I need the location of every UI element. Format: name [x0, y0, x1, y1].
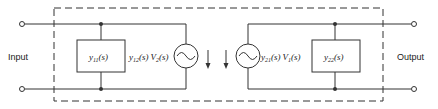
input-label: Input: [8, 52, 29, 62]
input-terminal-bottom: [20, 87, 25, 92]
junction-dot: [333, 87, 337, 91]
output-label: Output: [397, 52, 425, 62]
input-terminal-top: [20, 22, 25, 27]
output-terminal-top: [412, 22, 417, 27]
output-terminal-bottom: [412, 87, 417, 92]
right-sine-glyph: [239, 53, 257, 60]
arrowhead-icon: [224, 63, 229, 69]
junction-dot: [333, 22, 337, 26]
two-port-y-parameter-diagram: Input Output y11(s) y22(s) y12(s)V2(s) y…: [0, 0, 438, 109]
left-source-label: y12(s)V2(s): [128, 52, 169, 63]
left-sine-glyph: [177, 53, 195, 60]
right-source-label: y21(s)V1(s): [260, 52, 301, 63]
y22-label: y22(s): [323, 52, 344, 63]
junction-dot: [99, 87, 103, 91]
arrowhead-icon: [206, 63, 211, 69]
circuit-svg: Input Output y11(s) y22(s) y12(s)V2(s) y…: [0, 0, 438, 109]
y11-label: y11(s): [88, 52, 108, 63]
junction-dot: [99, 22, 103, 26]
